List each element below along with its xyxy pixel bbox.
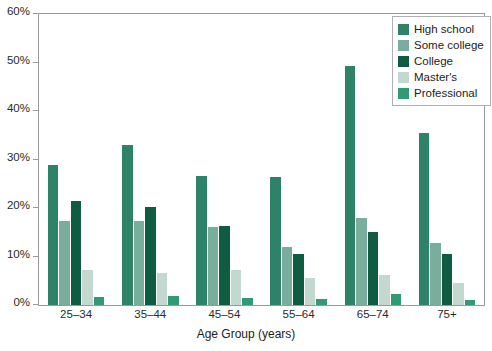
legend-swatch-icon (398, 40, 409, 51)
bar (196, 176, 207, 305)
bar (430, 243, 441, 305)
y-axis-tick-label: 20% (7, 199, 30, 211)
bar (316, 299, 327, 305)
x-axis-tick-label: 75+ (437, 308, 457, 320)
bar (145, 207, 156, 305)
bar (157, 273, 168, 305)
bar-chart: 0%10%20%30%40%50%60% 25–3435–4445–5455–6… (0, 0, 492, 351)
x-axis-tick-label: 65–74 (357, 308, 389, 320)
bar (122, 145, 133, 305)
y-axis-tick-label: 50% (7, 54, 30, 66)
y-axis-tick-label: 0% (13, 296, 30, 308)
y-axis-tick-label: 10% (7, 248, 30, 260)
legend-item-label: Professional (414, 88, 477, 99)
bar (134, 221, 145, 305)
bar (293, 254, 304, 305)
bar (208, 227, 219, 305)
bar (442, 254, 453, 305)
bar (168, 296, 179, 305)
bar (48, 165, 59, 305)
legend-item[interactable]: Master's (398, 69, 484, 85)
x-axis: 25–3435–4445–5455–6465–7475+ (38, 308, 485, 328)
bar (242, 298, 253, 305)
x-axis-tick-label: 25–34 (60, 308, 92, 320)
legend-item-label: Master's (414, 72, 457, 83)
bar (82, 270, 93, 305)
x-axis-title: Age Group (years) (0, 327, 492, 341)
legend-item-label: Some college (414, 40, 484, 51)
y-axis-tick-label: 60% (7, 5, 30, 17)
y-axis-tick-label: 40% (7, 102, 30, 114)
bar (345, 66, 356, 305)
legend-swatch-icon (398, 88, 409, 99)
bar (59, 221, 70, 305)
legend-swatch-icon (398, 72, 409, 83)
bar (94, 297, 105, 305)
y-axis: 0%10%20%30%40%50%60% (0, 13, 38, 306)
bar (391, 294, 402, 305)
bar (231, 270, 242, 305)
x-axis-tick-label: 55–64 (283, 308, 315, 320)
bar (368, 232, 379, 305)
legend-item[interactable]: High school (398, 21, 484, 37)
legend-item-label: High school (414, 24, 474, 35)
legend-item-label: College (414, 56, 453, 67)
bar (305, 278, 316, 305)
bar (282, 247, 293, 305)
bar (465, 300, 476, 305)
bar (71, 201, 82, 305)
bar (453, 283, 464, 305)
legend-item[interactable]: Professional (398, 85, 484, 101)
bar (270, 177, 281, 305)
legend: High schoolSome collegeCollegeMaster'sPr… (392, 16, 491, 106)
legend-item[interactable]: Some college (398, 37, 484, 53)
legend-item[interactable]: College (398, 53, 484, 69)
bar (219, 226, 230, 305)
legend-swatch-icon (398, 56, 409, 67)
x-axis-tick-label: 35–44 (134, 308, 166, 320)
x-axis-tick-label: 45–54 (208, 308, 240, 320)
y-axis-tick-label: 30% (7, 151, 30, 163)
bar (379, 275, 390, 305)
legend-swatch-icon (398, 24, 409, 35)
bar (419, 133, 430, 305)
bar (356, 218, 367, 305)
